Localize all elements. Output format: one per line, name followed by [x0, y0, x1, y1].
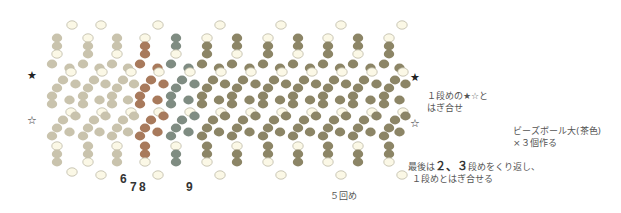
bead-chain [379, 100, 389, 109]
bead-chain [140, 84, 150, 93]
bead-chain [183, 128, 193, 137]
bead [323, 142, 333, 151]
bead-chain [58, 76, 68, 85]
bead-chain [166, 60, 176, 69]
bead-chain [129, 112, 139, 121]
bead-chain [107, 60, 117, 69]
bead [140, 142, 150, 151]
bead-bottom [293, 142, 303, 150]
bead-chain [146, 116, 156, 125]
bead-top [263, 34, 273, 42]
bead [263, 142, 273, 151]
bead-chain [269, 76, 279, 85]
bead-chain [299, 116, 309, 125]
bead-chain [250, 112, 260, 121]
bead [171, 150, 181, 159]
bead-chain [281, 112, 291, 121]
thread-number-6: 6 [120, 172, 127, 186]
bead [232, 158, 242, 167]
bead-chain [238, 76, 248, 85]
bead-chain [171, 84, 181, 93]
bead-chain [189, 112, 199, 121]
cap-bead-bottom [276, 171, 286, 179]
bead [112, 150, 122, 159]
bead-chain [140, 124, 150, 133]
bead-chain [384, 84, 394, 93]
bead [323, 50, 333, 59]
bead-chain [135, 92, 145, 101]
bead-chain [371, 112, 381, 121]
bead-chain [359, 76, 369, 85]
bead-chain [197, 100, 207, 109]
bead-chain [208, 116, 218, 125]
result-line1: ビーズボール大(茶色) [513, 125, 601, 137]
bead-chain [220, 80, 230, 89]
bead-chain [107, 92, 117, 101]
bead [202, 50, 212, 59]
bead-top [112, 50, 122, 58]
bead-bottom [140, 158, 150, 166]
bead-chain [394, 128, 404, 137]
bead-bottom [232, 142, 242, 150]
bead-chain [371, 80, 381, 89]
bead-chain [277, 68, 287, 76]
bead-top [293, 50, 303, 58]
bead-chain [335, 96, 345, 105]
bead [353, 158, 363, 167]
bead-bottom [52, 142, 62, 150]
thread-number-9: 9 [186, 180, 193, 194]
join-note-line2: はぎ合せ [427, 102, 488, 114]
bead-chain [258, 132, 268, 141]
bead-chain [70, 80, 80, 89]
bead-chain [89, 76, 99, 85]
bead [232, 34, 242, 43]
star-outline-right: ☆ [410, 118, 420, 129]
bead-chain [227, 100, 237, 109]
bead-chain [390, 76, 400, 85]
bead-chain [348, 60, 358, 69]
bead-bottom [263, 158, 273, 166]
bead-bottom [112, 142, 122, 150]
bead-chain [281, 80, 291, 89]
bead-chain [348, 100, 358, 109]
bead-chain [100, 80, 110, 89]
bead-chain [166, 100, 176, 109]
bead-chain [78, 132, 88, 141]
star-filled-right: ★ [410, 72, 420, 83]
bead [140, 50, 150, 59]
bead-chain [311, 80, 321, 89]
bead-chain [166, 92, 176, 101]
bead [384, 50, 394, 59]
cap-bead-bottom [67, 168, 77, 176]
bead-chain [216, 68, 226, 76]
bead-chain [307, 68, 317, 76]
bead-bottom [353, 142, 363, 150]
cap-bead-top [67, 21, 77, 29]
bead-chain [177, 116, 187, 125]
bead-chain [288, 100, 298, 109]
bead-chain [335, 128, 345, 137]
bead-chain [70, 112, 80, 121]
bead [83, 42, 93, 51]
bead-chain [263, 124, 273, 133]
bead-chain [83, 84, 93, 93]
bead [140, 42, 150, 51]
bead-top [353, 50, 363, 58]
cap-bead-bottom [96, 171, 106, 179]
bead-chain [214, 128, 224, 137]
bead-chain [329, 116, 339, 125]
bead-chain [152, 128, 162, 137]
bead-chain [323, 124, 333, 133]
bead-chain [337, 68, 347, 76]
bead-chain [263, 84, 273, 93]
bead-chain [152, 96, 162, 105]
bead-chain [275, 128, 285, 137]
bead-chain [288, 92, 298, 101]
bead-chain [353, 84, 363, 93]
bead-chain [189, 80, 199, 89]
bead-chain [398, 68, 408, 76]
cap-bead-bottom [215, 171, 225, 179]
bead [263, 50, 273, 59]
join-note: １段めの★☆と はぎ合せ [427, 90, 488, 114]
bead-chain [244, 96, 254, 105]
